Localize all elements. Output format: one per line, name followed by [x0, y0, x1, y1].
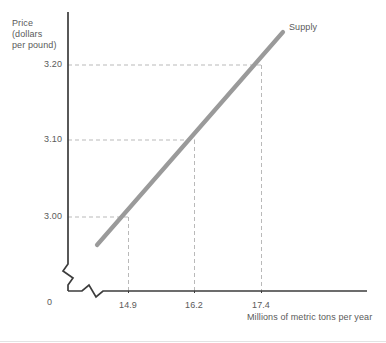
- ytick-label-3-10: 3.10: [20, 134, 62, 145]
- supply-curve-label: Supply: [289, 22, 317, 33]
- price-axis-title-line-2: (dollars: [12, 29, 57, 40]
- price-axis: [63, 12, 73, 291]
- price-axis-title-line-1: Price: [12, 18, 57, 29]
- quantity-axis: [68, 285, 367, 297]
- bottom-divider: [0, 341, 386, 342]
- vertical-droplines: [129, 65, 262, 291]
- price-axis-title: Price (dollars per pound): [12, 18, 57, 51]
- supply-curve-figure: Price (dollars per pound) 3.20 3.10 3.00…: [0, 0, 386, 343]
- chart-canvas: [0, 0, 386, 343]
- ytick-label-3-20: 3.20: [20, 59, 62, 70]
- ytick-label-3-00: 3.00: [20, 211, 62, 222]
- price-axis-title-line-3: per pound): [12, 40, 57, 51]
- xtick-label-16-2: 16.2: [174, 300, 214, 311]
- origin-label: 0: [47, 297, 52, 308]
- supply-curve-line: [97, 32, 283, 245]
- xtick-label-17-4: 17.4: [241, 300, 281, 311]
- quantity-axis-title: Millions of metric tons per year: [247, 312, 372, 323]
- xtick-label-14-9: 14.9: [108, 300, 148, 311]
